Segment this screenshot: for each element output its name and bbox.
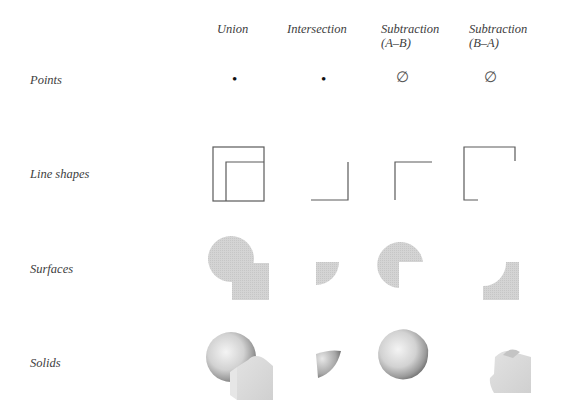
b-minus-a-surface <box>483 262 519 300</box>
a-minus-b-lines <box>395 162 432 200</box>
union-lines <box>213 147 264 201</box>
b-minus-a-lines <box>464 147 515 200</box>
intersection-solid <box>316 350 341 378</box>
a-minus-b-solid <box>378 329 428 379</box>
boolean-operations-figure <box>0 0 561 410</box>
b-minus-a-solid <box>490 350 531 393</box>
a-minus-b-surface <box>377 242 423 288</box>
union-surface <box>208 236 269 300</box>
union-solid <box>206 332 273 400</box>
intersection-lines <box>311 162 348 200</box>
intersection-surface <box>316 262 339 285</box>
